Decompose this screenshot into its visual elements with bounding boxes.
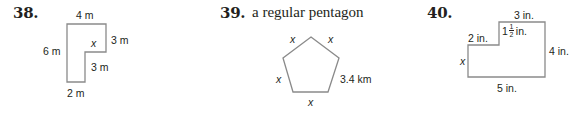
- label-39-top-right: x: [328, 33, 333, 45]
- fraction-denominator: 2: [509, 31, 513, 38]
- label-39-left: x: [276, 73, 281, 85]
- label-38-left: 6 m: [43, 45, 61, 57]
- label-40-right: 4 in.: [549, 45, 569, 57]
- label-38-top: 4 m: [76, 9, 94, 21]
- label-40-step-height: 1 1 2 in.: [502, 23, 527, 38]
- problem-number-38: 38.: [13, 4, 38, 22]
- label-40-bottom: 5 in.: [497, 82, 517, 94]
- step-height-unit: in.: [516, 25, 527, 37]
- label-40-step-top: 2 in.: [468, 32, 488, 44]
- label-40-left-x: x: [460, 55, 465, 67]
- fraction-numerator: 1: [509, 23, 513, 30]
- label-38-right-lower: 3 m: [91, 61, 109, 73]
- problem-number-40: 40.: [427, 4, 452, 22]
- problem-title-39: a regular pentagon: [252, 4, 364, 21]
- step-height-fraction: 1 2: [509, 23, 514, 38]
- problem-number-39: 39.: [220, 4, 245, 22]
- label-38-right-upper: 3 m: [111, 34, 129, 46]
- label-38-inner-x: x: [91, 37, 96, 49]
- label-39-bottom: x: [308, 96, 313, 108]
- label-38-bottom: 2 m: [67, 87, 85, 99]
- pentagon-figure-39: [283, 37, 339, 92]
- label-39-top-left: x: [290, 33, 295, 45]
- label-39-right: 3.4 km: [340, 73, 372, 85]
- l-shape-figure-38: [67, 24, 106, 82]
- step-height-whole: 1: [502, 25, 508, 37]
- label-40-top: 3 in.: [514, 9, 534, 21]
